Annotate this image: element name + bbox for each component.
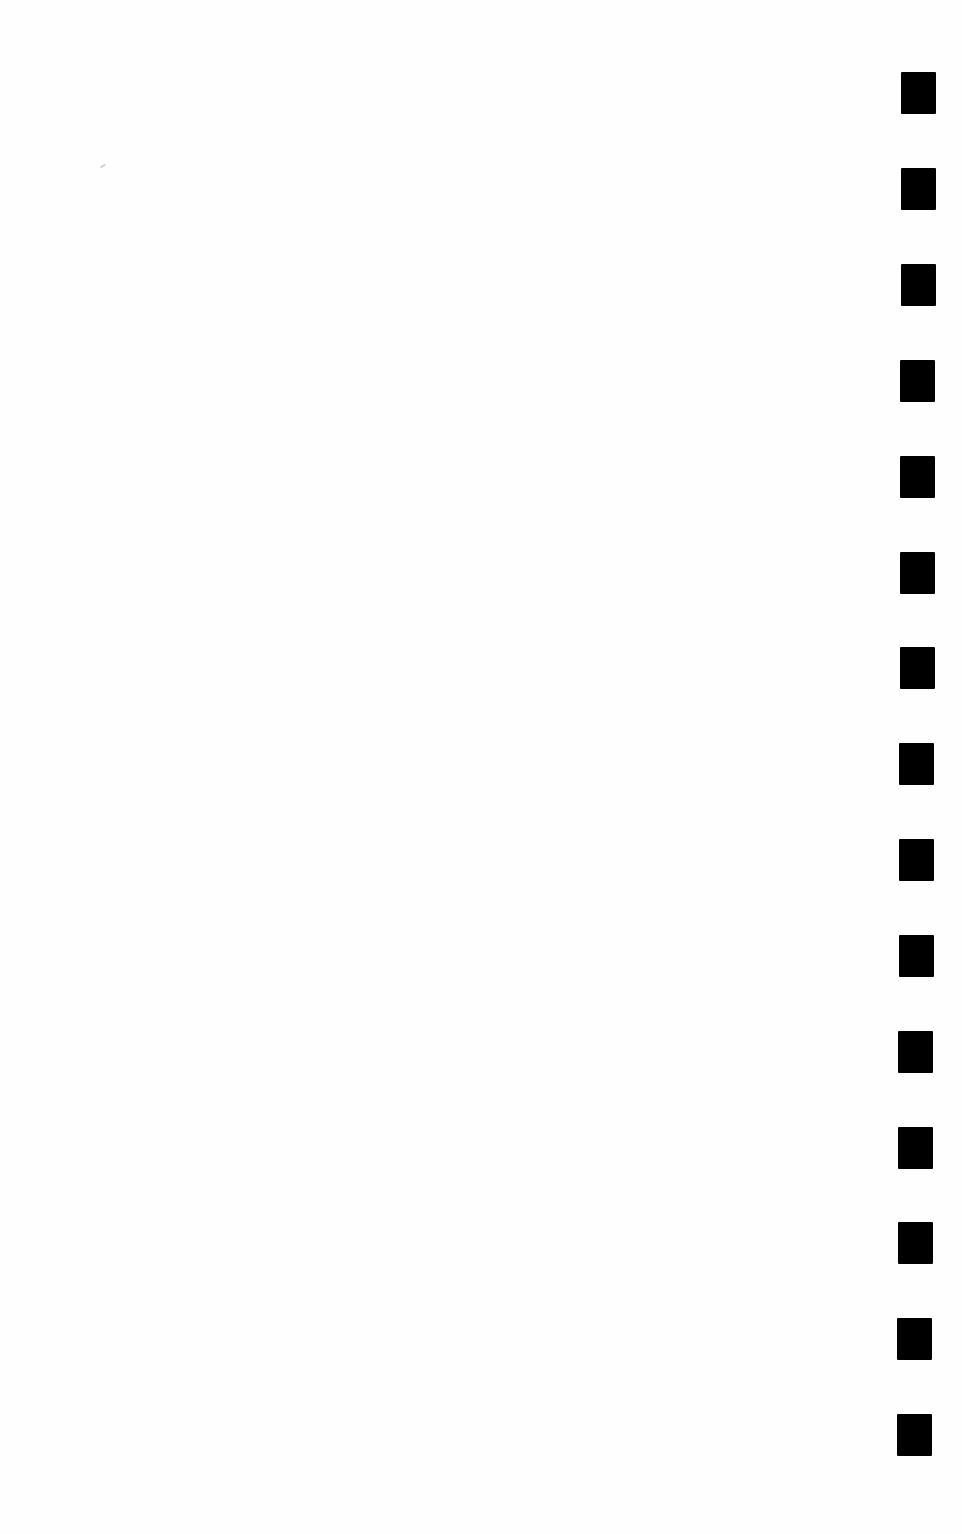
registration-mark [901, 168, 936, 210]
registration-mark [901, 72, 936, 114]
registration-mark [897, 1414, 932, 1456]
document-page [0, 0, 962, 1534]
registration-mark [901, 264, 936, 306]
registration-mark [900, 647, 935, 689]
registration-mark [898, 1127, 933, 1169]
registration-mark [899, 935, 934, 977]
registration-mark [898, 1031, 933, 1073]
registration-mark [900, 456, 935, 498]
registration-marks-column [0, 0, 962, 1534]
registration-mark [900, 360, 935, 402]
registration-mark [898, 1222, 933, 1264]
registration-mark [897, 1318, 932, 1360]
registration-mark [899, 743, 934, 785]
registration-mark [899, 839, 934, 881]
registration-mark [900, 552, 935, 594]
